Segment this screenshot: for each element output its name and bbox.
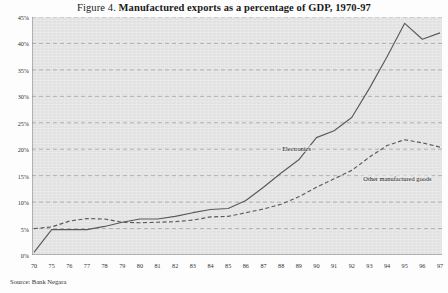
y-axis-tick-label: 5% [21,225,29,232]
series-line-1 [34,23,440,252]
series-label-1: Electronics [281,145,312,152]
y-axis-tick-label: 30% [18,93,29,100]
y-axis-tick-label: 0% [21,252,29,259]
x-axis-tick-label: 79 [119,262,125,269]
x-axis-tick-label: 77 [84,262,90,269]
x-axis-tick-label: 92 [349,262,355,269]
y-axis-tick-label: 25% [18,119,29,126]
source-note: Source: Bank Negara [10,278,66,285]
x-axis-tick-label: 89 [296,262,302,269]
x-axis-tick-label: 84 [207,262,213,269]
chart-svg [32,17,442,255]
y-axis-tick-label: 35% [18,66,29,73]
plot-area [32,17,442,255]
axis-lines [32,17,442,255]
y-axis-tick-label: 15% [18,172,29,179]
x-axis-tick-label: 93 [366,262,372,269]
x-axis-tick-label: 90 [313,262,319,269]
x-axis-tick-label: 87 [260,262,266,269]
y-axis-tick-label: 45% [18,14,29,21]
figure-number: Figure 4. [77,2,116,13]
y-axis-tick-label: 40% [18,40,29,47]
x-axis-tick-label: 94 [384,262,390,269]
x-axis-tick-label: 88 [278,262,284,269]
x-axis-tick-label: 76 [66,262,72,269]
y-axis-tick-label: 20% [18,146,29,153]
x-axis-tick-label: 85 [225,262,231,269]
x-axis-tick-label: 75 [49,262,55,269]
x-axis-tick-label: 97 [437,262,443,269]
y-axis-tick-label: 10% [18,199,29,206]
figure-container: Figure 4. Manufactured exports as a perc… [0,0,448,293]
x-axis-tick-label: 70 [31,262,37,269]
x-axis-tick-label: 78 [102,262,108,269]
x-axis-tick-label: 96 [419,262,425,269]
figure-title: Figure 4. Manufactured exports as a perc… [0,0,448,15]
figure-title-text: Manufactured exports as a percentage of … [119,2,371,13]
x-axis-tick-label: 95 [402,262,408,269]
x-axis-tick-label: 86 [243,262,249,269]
x-axis-tick-label: 82 [172,262,178,269]
series-label-2: Other manufactured goods [362,175,432,182]
x-axis-tick-label: 83 [190,262,196,269]
x-axis-tick-label: 80 [137,262,143,269]
x-axis-tick-label: 91 [331,262,337,269]
series-line-2 [34,140,440,229]
y-axis-labels: 0%5%10%15%20%25%30%35%40%45% [0,0,32,293]
x-axis-tick-label: 81 [154,262,160,269]
